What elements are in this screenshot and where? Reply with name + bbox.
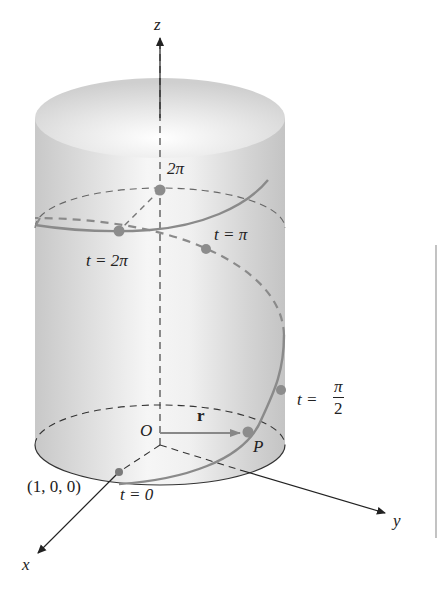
point-p-label: P: [253, 438, 263, 455]
fraction-numerator: π: [333, 378, 344, 398]
x-axis-label: x: [22, 556, 30, 573]
y-axis-label: y: [393, 512, 401, 529]
point-p: [243, 427, 254, 438]
helix-figure: z y x O 2π t = 2π t = π t = π 2 r P (1, …: [0, 0, 447, 593]
origin-label: O: [140, 422, 152, 439]
t-zero-label: t = 0: [120, 486, 153, 503]
t-half-pi-prefix: t =: [297, 391, 317, 408]
point-t-zero: [115, 468, 123, 476]
point-z-2pi: [155, 185, 166, 196]
t-pi-label: t = π: [214, 226, 247, 243]
helix-diagram-svg: [0, 0, 447, 593]
y-axis-arrow: [240, 470, 385, 513]
vector-r-label: r: [197, 407, 205, 424]
half-pi-fraction: π 2: [333, 378, 344, 417]
start-point-label: (1, 0, 0): [27, 478, 81, 495]
z-axis-label: z: [154, 16, 161, 33]
fraction-denominator: 2: [334, 398, 343, 417]
t-2pi-label: t = 2π: [86, 252, 128, 269]
point-t-2pi: [114, 226, 125, 237]
point-t-pi: [201, 244, 211, 254]
z-height-2pi-label: 2π: [167, 160, 184, 177]
point-t-half-pi: [276, 385, 286, 395]
